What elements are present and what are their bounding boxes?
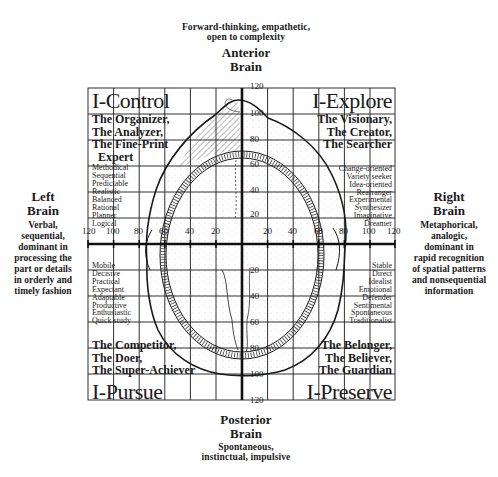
quadrant-role: The Visionary, — [300, 113, 392, 126]
left-brain-description-line: in orderly and — [0, 275, 86, 286]
y-tick-top-60: 60 — [250, 159, 259, 169]
anterior-caption: Forward-thinking, empathetic, open to co… — [146, 22, 346, 73]
right-brain-description-line: information — [400, 286, 498, 297]
left-brain-description-line: Verbal, — [0, 220, 86, 231]
left-brain-description-line: part or details — [0, 264, 86, 275]
quadrant-title: I-Pursue — [92, 381, 195, 403]
right-brain-description-line: rapid recognition — [400, 253, 498, 264]
quadrant-i-pursue: Mobile Decisive Practical Expectant Adap… — [92, 262, 195, 403]
posterior-title-line: Brain — [146, 427, 346, 441]
right-brain-description-line: Metaphorical, — [400, 220, 498, 231]
y-tick-top-120: 120 — [250, 81, 264, 91]
right-brain-caption: Right Brain Metaphorical, analogic, domi… — [400, 190, 498, 297]
right-brain-description-line: and nonsequential — [400, 275, 498, 286]
anterior-title-line: Anterior — [146, 46, 346, 60]
quadrant-role: The Competitor, — [92, 339, 195, 352]
y-tick-bottom-20: 20 — [250, 265, 259, 275]
quadrant-i-control: I-Control The Organizer, The Analyzer, T… — [92, 90, 170, 228]
quadrant-role: The Belonger, — [300, 339, 392, 352]
quadrant-title: I-Explore — [300, 90, 392, 112]
left-brain-description-line: processing the — [0, 253, 86, 264]
right-brain-description-line: dominant in — [400, 242, 498, 253]
posterior-caption: Posterior Brain Spontaneous, instinctual… — [146, 413, 346, 462]
y-tick-bottom-80: 80 — [250, 343, 259, 353]
y-tick-bottom-100: 100 — [250, 369, 264, 379]
trait-item: Quick study — [92, 317, 195, 325]
y-tick-top-100: 100 — [250, 108, 264, 118]
posterior-description-line: Spontaneous, — [146, 442, 346, 452]
quadrant-i-preserve: Stable Direct Idealist Emotional Defende… — [300, 262, 392, 403]
y-tick-top-40: 40 — [250, 185, 259, 195]
quadrant-title: I-Preserve — [300, 381, 392, 403]
right-brain-description-line: of spatial patterns — [400, 264, 498, 275]
x-tick-left-20: 20 — [211, 226, 220, 236]
y-tick-top-80: 80 — [250, 134, 259, 144]
quadrant-role: The Searcher — [300, 138, 392, 151]
left-brain-description-line: timely fashion — [0, 286, 86, 297]
left-brain-description-line: dominant in — [0, 242, 86, 253]
trait-item: Traditionalist — [300, 317, 392, 325]
right-brain-description-line: analogic, — [400, 231, 498, 242]
trait-item: Logical — [92, 220, 170, 228]
left-brain-title-line: Brain — [0, 204, 86, 218]
anterior-description-line: open to complexity — [146, 32, 346, 42]
right-brain-title-line: Brain — [400, 204, 498, 218]
x-tick-right-20: 20 — [263, 226, 272, 236]
quadrant-role: The Organizer, — [92, 113, 170, 126]
left-brain-caption: Left Brain Verbal, sequential, dominant … — [0, 190, 86, 297]
quadrant-role: Expert — [92, 151, 170, 164]
y-tick-bottom-40: 40 — [250, 291, 259, 301]
anterior-title-line: Brain — [146, 60, 346, 74]
trait-item: Dreamer — [300, 220, 392, 228]
posterior-title-line: Posterior — [146, 413, 346, 427]
quadrant-role: The Fine-Print — [92, 138, 170, 151]
y-tick-bottom-60: 60 — [250, 317, 259, 327]
posterior-description-line: instinctual, impulsive — [146, 452, 346, 462]
anterior-description-line: Forward-thinking, empathetic, — [146, 22, 346, 32]
quadrant-i-explore: I-Explore The Visionary, The Creator, Th… — [300, 90, 392, 228]
left-brain-title-line: Left — [0, 190, 86, 204]
left-brain-description-line: sequential, — [0, 231, 86, 242]
quadrant-title: I-Control — [92, 90, 170, 112]
x-tick-left-40: 40 — [185, 226, 194, 236]
y-tick-bottom-120: 120 — [250, 395, 264, 405]
right-brain-title-line: Right — [400, 190, 498, 204]
quadrant-role: The Guardian — [300, 364, 392, 377]
y-tick-top-20: 20 — [250, 209, 259, 219]
quadrant-role: The Super-Achiever — [92, 364, 195, 377]
x-tick-right-40: 40 — [288, 226, 297, 236]
